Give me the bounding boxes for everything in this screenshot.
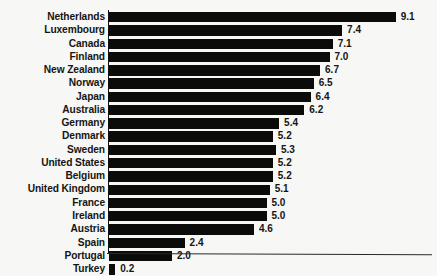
bar-row: Finland7.0 <box>0 51 437 64</box>
bar-row: Spain2.4 <box>0 237 437 250</box>
bar-row: New Zealand6.7 <box>0 64 437 77</box>
bar <box>109 105 304 115</box>
bar-value-label: 5.0 <box>272 197 286 210</box>
bar-value-label: 5.4 <box>284 117 298 130</box>
bar-value-label: 7.4 <box>347 24 361 37</box>
bar-row: United Kingdom5.1 <box>0 183 437 196</box>
bar-value-label: 5.3 <box>281 144 295 157</box>
bar <box>109 158 273 168</box>
category-label: Germany <box>0 117 105 130</box>
bar <box>109 78 314 88</box>
bar-value-label: 7.1 <box>338 38 352 51</box>
category-label: Netherlands <box>0 11 105 24</box>
bar <box>109 65 320 75</box>
bar-value-label: 2.0 <box>177 250 191 263</box>
category-label: Portugal <box>0 250 105 263</box>
bar-value-label: 9.1 <box>401 11 415 24</box>
bar-row: Japan6.4 <box>0 91 437 104</box>
bar-row: Norway6.5 <box>0 77 437 90</box>
bar-row: Belgium5.2 <box>0 170 437 183</box>
bar-value-label: 5.2 <box>278 170 292 183</box>
bar <box>109 198 267 208</box>
category-label: Sweden <box>0 144 105 157</box>
category-label: Australia <box>0 104 105 117</box>
bar <box>109 145 276 155</box>
bar <box>109 171 273 181</box>
bar <box>109 92 311 102</box>
bar-value-label: 6.5 <box>319 77 333 90</box>
bar-value-label: 6.7 <box>325 64 339 77</box>
bar-row: Canada7.1 <box>0 38 437 51</box>
category-label: United Kingdom <box>0 183 105 196</box>
category-label: Turkey <box>0 263 105 276</box>
bar-row: Netherlands9.1 <box>0 11 437 24</box>
bar-value-label: 6.2 <box>309 104 323 117</box>
bar-value-label: 7.0 <box>335 51 349 64</box>
bar-row: Australia6.2 <box>0 104 437 117</box>
bar-value-label: 5.2 <box>278 130 292 143</box>
bar-row: Austria4.6 <box>0 223 437 236</box>
category-label: Spain <box>0 237 105 250</box>
chart-plot-area: Netherlands9.1Luxembourg7.4Canada7.1Finl… <box>0 11 437 276</box>
bar <box>109 131 273 141</box>
bar-row: Luxembourg7.4 <box>0 24 437 37</box>
bar-row: Sweden5.3 <box>0 144 437 157</box>
bar-row: Germany5.4 <box>0 117 437 130</box>
bar <box>109 25 342 35</box>
bar-row: Turkey0.2 <box>0 263 437 276</box>
bar-value-label: 6.4 <box>316 91 330 104</box>
category-label: Japan <box>0 91 105 104</box>
category-label: New Zealand <box>0 64 105 77</box>
bar <box>109 224 254 234</box>
bar-value-label: 5.2 <box>278 157 292 170</box>
bar-row: United States5.2 <box>0 157 437 170</box>
bar <box>109 39 333 49</box>
bar-row: France5.0 <box>0 197 437 210</box>
bar <box>109 52 330 62</box>
bar-value-label: 4.6 <box>259 223 273 236</box>
bar-value-label: 2.4 <box>190 237 204 250</box>
category-label: United States <box>0 157 105 170</box>
category-label: Denmark <box>0 130 105 143</box>
category-label: Ireland <box>0 210 105 223</box>
bar-row: Denmark5.2 <box>0 130 437 143</box>
category-label: Norway <box>0 77 105 90</box>
category-label: France <box>0 197 105 210</box>
bar <box>109 118 279 128</box>
bar-row: Portugal2.0 <box>0 250 437 263</box>
y-axis-line <box>108 10 110 253</box>
bar <box>109 238 185 248</box>
category-label: Belgium <box>0 170 105 183</box>
bar <box>109 211 267 221</box>
bar-value-label: 5.1 <box>275 183 289 196</box>
bar <box>109 185 270 195</box>
category-label: Luxembourg <box>0 24 105 37</box>
category-label: Finland <box>0 51 105 64</box>
bar <box>109 264 115 274</box>
bar <box>109 12 396 22</box>
bar-row: Ireland5.0 <box>0 210 437 223</box>
bar-value-label: 0.2 <box>120 263 134 276</box>
category-label: Austria <box>0 223 105 236</box>
category-label: Canada <box>0 38 105 51</box>
bar-value-label: 5.0 <box>272 210 286 223</box>
